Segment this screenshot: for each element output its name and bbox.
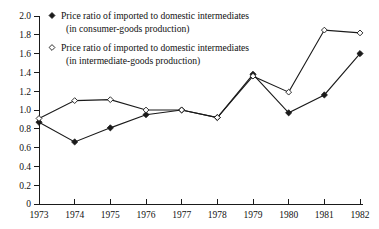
data-point — [286, 89, 292, 95]
chart-container: 00.20.40.60.81.01.21.41.61.82.0 19731974… — [0, 0, 379, 229]
data-point — [143, 107, 149, 113]
data-point — [107, 125, 113, 131]
x-tick-label: 1982 — [351, 210, 370, 220]
y-tick-label: 0.2 — [19, 181, 31, 191]
data-point — [72, 139, 78, 145]
x-tick-label: 1974 — [65, 210, 84, 220]
x-tick-label: 1980 — [279, 210, 298, 220]
data-point — [36, 116, 42, 122]
y-tick-label: 0.6 — [19, 143, 31, 153]
y-axis-ticks: 00.20.40.60.81.01.21.41.61.82.0 — [19, 11, 39, 209]
data-point — [72, 98, 78, 104]
x-tick-label: 1979 — [244, 210, 263, 220]
y-tick-label: 0.4 — [19, 162, 31, 172]
x-tick-label: 1981 — [315, 210, 334, 220]
x-tick-label: 1977 — [172, 210, 191, 220]
y-tick-label: 0 — [26, 199, 31, 209]
filled-diamond-icon — [49, 13, 55, 19]
x-tick-label: 1978 — [208, 210, 227, 220]
chart-legend: Price ratio of imported to domestic inte… — [49, 10, 249, 67]
line-chart: 00.20.40.60.81.01.21.41.61.82.0 19731974… — [0, 0, 379, 229]
legend-label-consumer-goods-line1: Price ratio of imported to domestic inte… — [61, 10, 249, 21]
legend-label-consumer-goods-line2: (in consumer-goods production) — [66, 23, 189, 35]
x-tick-label: 1975 — [101, 210, 120, 220]
legend-label-intermediate-goods-line1: Price ratio of imported to domestic inte… — [61, 42, 249, 53]
series-line-1 — [39, 54, 360, 142]
y-tick-label: 1.0 — [19, 105, 31, 115]
open-diamond-icon — [49, 45, 55, 51]
x-tick-label: 1973 — [30, 210, 49, 220]
y-tick-label: 2.0 — [19, 11, 31, 21]
legend-entry-consumer-goods: Price ratio of imported to domestic inte… — [49, 10, 249, 35]
x-tick-label: 1976 — [137, 210, 156, 220]
data-point — [321, 27, 327, 33]
data-point — [357, 30, 363, 36]
y-tick-label: 1.6 — [19, 49, 31, 59]
y-tick-label: 1.8 — [19, 30, 31, 40]
data-point — [179, 107, 185, 113]
legend-label-intermediate-goods-line2: (in intermediate-goods production) — [66, 55, 200, 67]
x-axis-ticks: 1973197419751976197719781979198019811982 — [30, 199, 370, 220]
legend-entry-intermediate-goods: Price ratio of imported to domestic inte… — [49, 42, 249, 67]
y-tick-label: 1.4 — [19, 68, 31, 78]
y-tick-label: 1.2 — [19, 87, 31, 97]
y-tick-label: 0.8 — [19, 124, 31, 134]
data-point — [107, 97, 113, 103]
